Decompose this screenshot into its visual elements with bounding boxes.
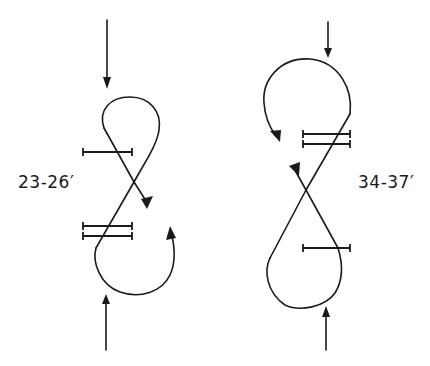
right-single-bar [303,244,350,252]
left-double-bar [83,222,132,240]
right-bottom-arrow-icon [322,306,330,350]
left-crossing-line [104,128,148,204]
right-loop-arrowhead-icon [270,130,281,142]
right-crossing-line-b [296,172,338,248]
left-single-bar [83,148,132,156]
right-figure-label: 34-37′ [358,172,414,192]
right-figure [264,22,351,350]
left-loop-arrowhead-icon [166,226,176,240]
right-bottom-loop [267,248,341,308]
left-direction-arrowhead-icon [141,196,153,209]
right-top-arrow-icon [324,22,332,58]
left-bottom-arrow-icon [102,294,110,350]
right-direction-arrowhead-icon [289,162,300,176]
left-figure [83,20,176,350]
left-bottom-loop [95,236,174,295]
right-double-bar [303,130,350,148]
right-top-loop [264,59,351,136]
diagram-canvas: 23-26′ 34-37′ [0,0,430,366]
left-top-arrow-icon [103,20,111,89]
right-crossing-line-a [270,114,350,258]
left-figure-label: 23-26′ [18,172,74,192]
